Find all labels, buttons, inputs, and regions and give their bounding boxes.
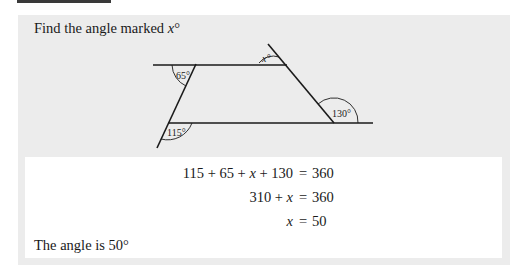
equation-rhs: 50 [312,213,327,230]
equation-row: 310 + x = 360 [25,189,502,209]
equation-row: 115 + 65 + x + 130 = 360 [25,165,502,185]
equation-lhs: 310 + x [249,189,293,206]
angle-label-130: 130° [332,108,351,119]
equation-row: x = 50 [25,213,502,233]
angle-label-65: 65° [176,70,190,81]
equals-sign: = [297,213,309,230]
angle-label-115: 115° [167,127,186,138]
equals-sign: = [297,189,309,206]
equals-sign: = [297,165,309,182]
conclusion-text: The angle is 50° [34,237,129,254]
question-panel: Find the angle marked x° 65° x° 130° 115… [18,15,510,265]
top-bar [17,0,111,3]
angle-label-x: x° [261,53,270,64]
equation-lhs: 115 + 65 + x + 130 [183,165,293,182]
solution-box: 115 + 65 + x + 130 = 360 310 + x = 360 x… [25,157,502,258]
equation-rhs: 360 [312,165,334,182]
geometry-diagram: 65° x° 130° 115° [18,15,510,165]
right-transversal [268,44,334,123]
equation-rhs: 360 [312,189,334,206]
equation-lhs: x [287,213,293,230]
